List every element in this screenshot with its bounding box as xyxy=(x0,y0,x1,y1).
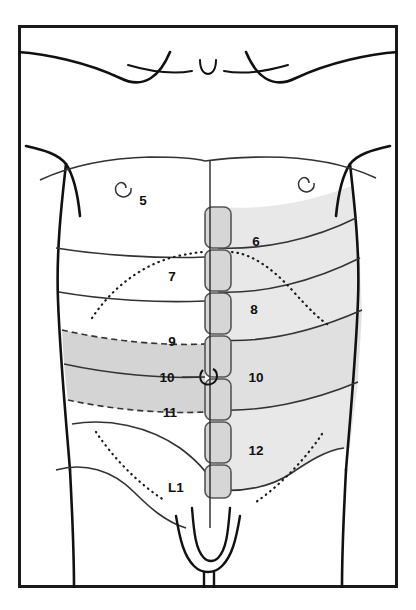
midline-segment xyxy=(205,250,231,291)
midline-segment xyxy=(205,293,231,334)
shaded-regions-right xyxy=(218,186,362,490)
label-L1: L1 xyxy=(168,480,184,495)
label-8: 8 xyxy=(250,302,258,317)
label-10-left: 10 xyxy=(159,370,174,385)
midline-segment xyxy=(205,422,231,463)
midline-segment xyxy=(205,207,231,248)
label-7: 7 xyxy=(168,269,176,284)
label-5: 5 xyxy=(139,193,147,208)
midline-vertebral-strip xyxy=(205,207,231,498)
midline-segment xyxy=(205,465,231,498)
anatomy-illustration: 5 7 9 10 11 L1 6 8 10 12 xyxy=(0,0,416,610)
label-9: 9 xyxy=(168,334,176,349)
label-10-right: 10 xyxy=(248,370,263,385)
dermatome-figure: 5 7 9 10 11 L1 6 8 10 12 xyxy=(0,0,416,610)
midline-segment xyxy=(205,336,231,377)
label-11: 11 xyxy=(163,405,178,420)
label-6: 6 xyxy=(252,234,260,249)
label-12: 12 xyxy=(248,443,263,458)
